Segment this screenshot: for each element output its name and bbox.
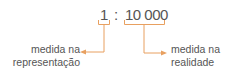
- right-bracket: [125, 20, 165, 25]
- right-connector: [144, 25, 162, 54]
- label-representation: medida na representação: [13, 43, 80, 69]
- left-bracket: [99, 20, 110, 25]
- right-arrow-icon: [161, 51, 167, 56]
- label-line: medida na: [171, 43, 220, 56]
- left-arrow-icon: [80, 50, 86, 55]
- label-line: realidade: [171, 56, 220, 69]
- label-line: representação: [13, 56, 80, 69]
- label-line: medida na: [13, 43, 80, 56]
- left-connector: [85, 25, 104, 53]
- label-reality: medida na realidade: [171, 43, 220, 69]
